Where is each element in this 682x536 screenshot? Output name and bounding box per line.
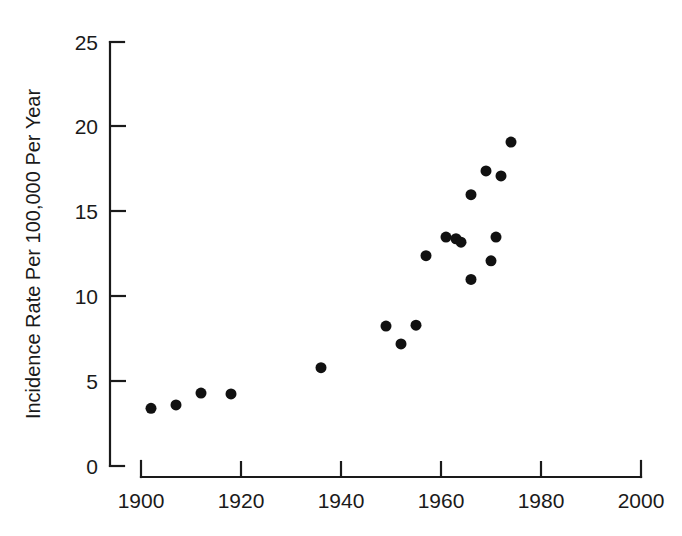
x-tick-label-1960: 1960 xyxy=(418,489,465,512)
data-point xyxy=(491,232,502,243)
x-tick-label-2000: 2000 xyxy=(618,489,665,512)
data-point xyxy=(196,388,207,399)
y-tick-label-25: 25 xyxy=(75,31,98,54)
data-point xyxy=(421,250,432,261)
data-point xyxy=(316,362,327,373)
y-tick-label-20: 20 xyxy=(75,115,98,138)
data-point xyxy=(496,170,507,181)
data-point xyxy=(466,189,477,200)
x-tick-label-1920: 1920 xyxy=(218,489,265,512)
x-tick-label-1900: 1900 xyxy=(118,489,165,512)
data-point xyxy=(171,399,182,410)
x-tick-label-1980: 1980 xyxy=(518,489,565,512)
data-point xyxy=(226,388,237,399)
data-point xyxy=(381,321,392,332)
y-tick-label-15: 15 xyxy=(75,200,98,223)
data-point xyxy=(466,274,477,285)
data-point xyxy=(411,320,422,331)
data-point xyxy=(486,255,497,266)
y-axis-title: Incidence Rate Per 100,000 Per Year xyxy=(22,89,44,420)
y-tick-label-0: 0 xyxy=(86,455,98,478)
data-point xyxy=(441,232,452,243)
y-tick-label-5: 5 xyxy=(86,370,98,393)
chart-background xyxy=(0,0,682,536)
data-point xyxy=(456,237,467,248)
data-point xyxy=(481,165,492,176)
y-tick-label-10: 10 xyxy=(75,285,98,308)
data-point xyxy=(506,137,517,148)
x-tick-label-1940: 1940 xyxy=(318,489,365,512)
data-point xyxy=(396,338,407,349)
chart-canvas: 25 20 15 10 5 0 1900 1920 1940 1960 1980… xyxy=(0,0,682,536)
data-point xyxy=(146,403,157,414)
scatter-plot-figure: 25 20 15 10 5 0 1900 1920 1940 1960 1980… xyxy=(0,0,682,536)
